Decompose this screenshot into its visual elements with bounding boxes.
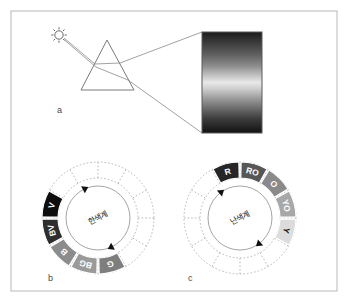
internal-ray <box>95 63 120 64</box>
wheel-divider <box>70 170 78 184</box>
panel-letter-c: c <box>188 273 193 283</box>
sun-ray-icon <box>53 29 55 31</box>
spectrum-band <box>202 32 262 133</box>
wheel-divider <box>133 190 147 198</box>
wheel-divider <box>192 238 206 246</box>
panel-c-warm-wheel: RROOYOY난색계 <box>184 162 296 274</box>
wheel-divider <box>192 190 206 198</box>
panel-a-prism-diagram <box>51 27 262 133</box>
incident-ray <box>64 38 95 64</box>
sun-ray-icon <box>63 29 65 31</box>
figure-canvas: VBVBBGG한색계 RROOYOY난색계 abc <box>0 0 349 303</box>
panel-b-cool-wheel: VBVBBGG한색계 <box>42 162 154 274</box>
wheel-divider <box>212 253 220 267</box>
sun-ray-icon <box>53 39 55 41</box>
wheel-divider <box>118 170 126 184</box>
figure-root: VBVBBGG한색계 RROOYOY난색계 abc <box>0 0 349 303</box>
panel-letter-a: a <box>57 105 62 115</box>
wheel-divider <box>260 253 268 267</box>
dispersed-ray-top <box>120 32 202 63</box>
sun-icon <box>55 31 63 39</box>
wheel-divider <box>133 238 147 246</box>
dispersed-ray-bottom <box>128 80 202 133</box>
incident-ray <box>64 40 96 67</box>
prism-triangle <box>81 40 134 90</box>
panel-letter-b: b <box>48 273 53 283</box>
